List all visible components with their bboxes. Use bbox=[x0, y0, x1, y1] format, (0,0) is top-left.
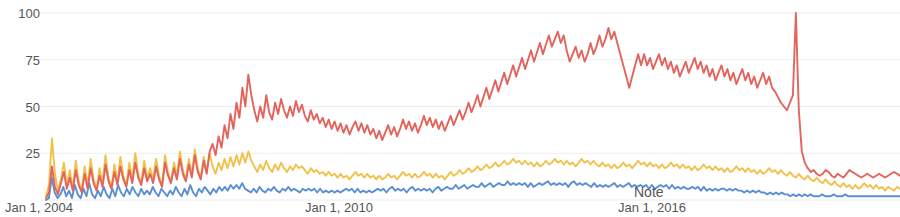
x-axis: Jan 1, 2004Jan 1, 2010Jan 1, 2016 bbox=[0, 200, 900, 217]
y-axis: 100755025 bbox=[0, 0, 46, 200]
x-tick-label-1: Jan 1, 2010 bbox=[305, 201, 373, 214]
x-tick-label-2: Jan 1, 2016 bbox=[618, 201, 686, 214]
chart-plot-area[interactable]: 100755025 Jan 1, 2004Jan 1, 2010Jan 1, 2… bbox=[0, 0, 900, 217]
chart-svg bbox=[0, 0, 900, 217]
note-annotation: Note bbox=[634, 185, 664, 199]
x-tick-label-0: Jan 1, 2004 bbox=[5, 201, 73, 214]
line-series-blue bbox=[46, 178, 900, 200]
y-tick-label-100: 100 bbox=[18, 7, 40, 20]
y-tick-label-50: 50 bbox=[26, 101, 40, 114]
y-tick-label-25: 25 bbox=[26, 147, 40, 160]
y-tick-label-75: 75 bbox=[26, 54, 40, 67]
trends-chart-screenshot: 100755025 Jan 1, 2004Jan 1, 2010Jan 1, 2… bbox=[0, 0, 900, 217]
